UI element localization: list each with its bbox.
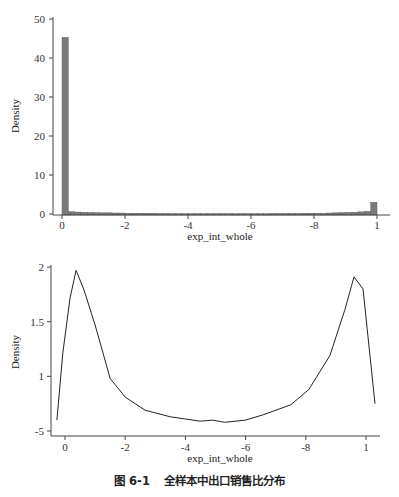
x-tick-label: 1	[374, 219, 380, 231]
y-tick-label: 20	[34, 130, 46, 142]
y-tick-label: 0	[40, 208, 46, 220]
y-tick-label: 1	[39, 370, 45, 382]
x-ticks: 0-2-4-6-81	[62, 436, 369, 453]
y-tick-label: 40	[34, 52, 46, 64]
y-tick-label: 30	[34, 91, 46, 103]
x-ticks: 0-2-4-6-81	[59, 215, 380, 231]
x-tick-label: 0	[59, 219, 65, 231]
y-tick-label: -5	[35, 425, 45, 437]
y-axis-label: Density	[9, 98, 21, 133]
histogram-bar	[371, 202, 377, 215]
density-curve	[57, 270, 375, 422]
x-tick-label: 1	[363, 441, 369, 453]
x-tick-label: -2	[120, 219, 129, 231]
x-tick-label: -8	[301, 441, 311, 453]
x-tick-label: -8	[309, 219, 319, 231]
histogram-bar	[62, 37, 68, 215]
figure-number: 图 6-1	[114, 472, 150, 488]
figure-title: 全样本中出口销售比分布	[164, 472, 285, 488]
y-ticks: -511.52	[30, 261, 51, 437]
histogram-bar	[364, 211, 370, 215]
y-tick-label: 10	[34, 169, 46, 181]
histogram-bar	[68, 212, 74, 215]
y-tick-label: 50	[34, 13, 46, 25]
histogram-bars	[62, 37, 377, 215]
density-chart: -511.52 0-2-4-6-81 Density exp_int_whole	[9, 261, 380, 464]
y-tick-label: 2	[39, 261, 45, 273]
figure-canvas: 01020304050 0-2-4-6-81 Density exp_int_w…	[0, 0, 399, 497]
x-axis-label: exp_int_whole	[187, 230, 252, 242]
figure-caption: 图 6-1全样本中出口销售比分布	[0, 472, 399, 488]
x-axis-label: exp_int_whole	[187, 452, 252, 464]
y-tick-label: 1.5	[30, 316, 44, 328]
x-tick-label: 0	[62, 441, 68, 453]
histogram-chart: 01020304050 0-2-4-6-81 Density exp_int_w…	[9, 13, 390, 242]
y-ticks: 01020304050	[34, 13, 53, 220]
x-tick-label: -2	[121, 441, 130, 453]
y-axis-label: Density	[9, 334, 21, 369]
